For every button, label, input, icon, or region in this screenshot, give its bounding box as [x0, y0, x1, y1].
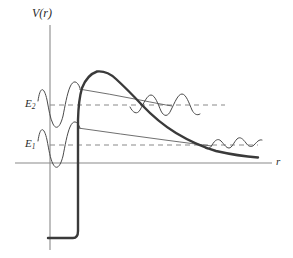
energy-level-E2-subscript: 2 [32, 102, 36, 111]
energy-level-E1-subscript: 1 [32, 142, 36, 151]
x-axis-label: r [276, 156, 280, 167]
energy-level-E2-symbol: E [25, 97, 32, 109]
energy-level-label-E1: E1 [25, 138, 35, 150]
energy-level-E1-symbol: E [25, 137, 32, 149]
y-axis-label-arg: (r) [39, 6, 52, 20]
y-axis-label: V(r) [32, 7, 52, 19]
energy-level-label-E2: E2 [25, 98, 35, 110]
figure-background [0, 0, 293, 258]
potential-barrier-diagram [0, 0, 293, 258]
